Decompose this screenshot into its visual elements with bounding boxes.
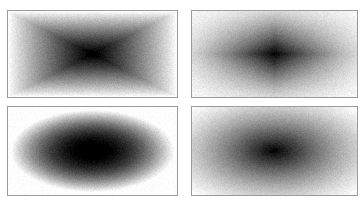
panel-bottom-left [7, 106, 178, 196]
panel-top-left [7, 10, 178, 98]
panel-top-right [191, 10, 358, 98]
ellipse-gradient-image [8, 107, 177, 195]
pyramid-gradient-image [8, 11, 177, 97]
panel-bottom-right [191, 106, 358, 196]
radial-gradient-image [192, 107, 357, 195]
cross-gradient-image [192, 11, 357, 97]
